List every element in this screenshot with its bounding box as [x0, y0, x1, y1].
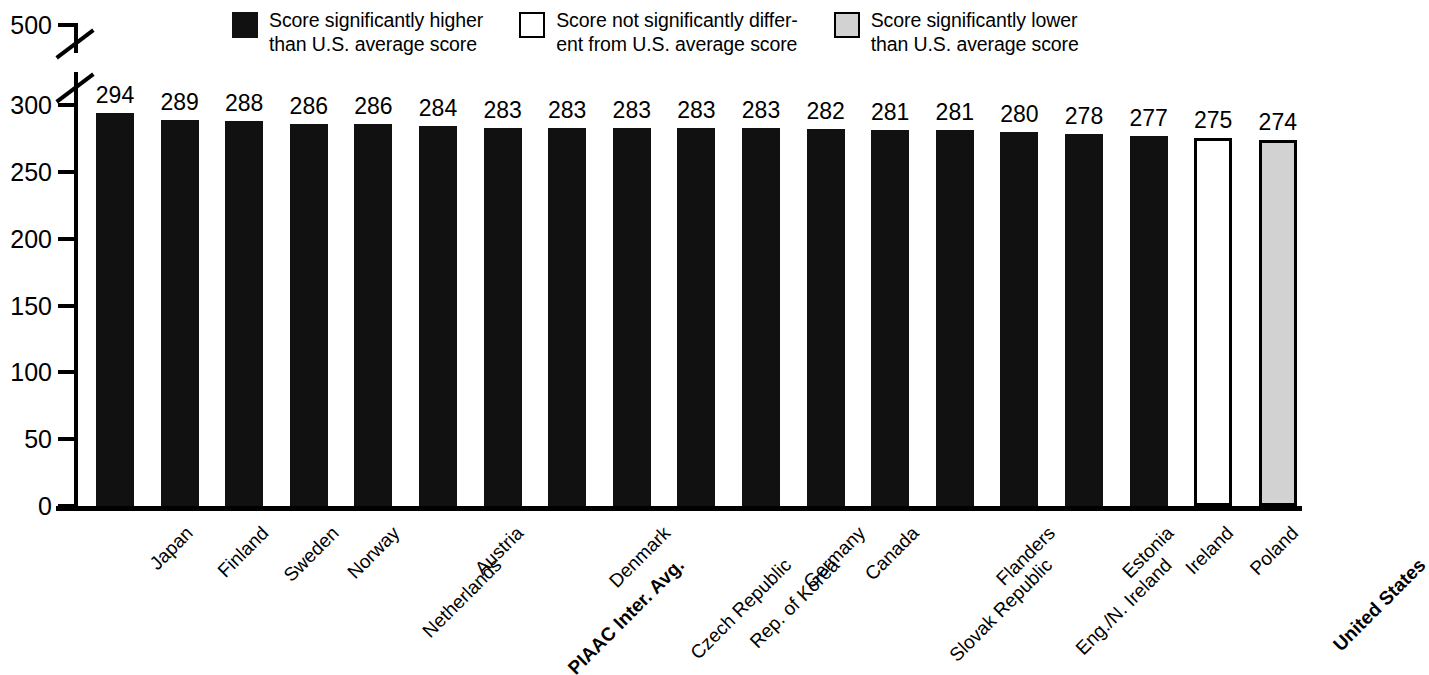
bar-value-label: 286 [279, 95, 339, 118]
bar [1194, 138, 1232, 506]
bar [1259, 140, 1297, 506]
bar [96, 113, 134, 506]
bar [807, 129, 845, 506]
bar [354, 124, 392, 506]
bar-value-label: 281 [860, 101, 920, 124]
x-tick-label: Norway [344, 523, 403, 582]
x-tick-label: Poland [1247, 523, 1302, 578]
bar [1065, 134, 1103, 506]
bar [290, 124, 328, 506]
x-tick-label: Canada [861, 523, 922, 584]
bar-value-label: 277 [1119, 107, 1179, 130]
bar [871, 130, 909, 506]
bar-value-label: 288 [214, 92, 274, 115]
plot-area: 500300250200150100500 294289288286286284… [0, 0, 1308, 560]
bar-value-label: 286 [343, 95, 403, 118]
x-axis-labels: JapanFinlandSwedenNorwayNetherlandsAustr… [0, 511, 1308, 675]
bar-value-label: 294 [85, 84, 145, 107]
bar-value-label: 283 [537, 99, 597, 122]
x-tick-label: Sweden [280, 523, 342, 585]
bar [936, 130, 974, 506]
bar-value-label: 283 [473, 99, 533, 122]
bar [1130, 136, 1168, 506]
x-tick-label: Ireland [1182, 523, 1237, 578]
bar-series: 2942892882862862842832832832832832822812… [0, 0, 1308, 560]
bar-value-label: 284 [408, 97, 468, 120]
bar-value-label: 281 [925, 101, 985, 124]
bar-value-label: 289 [150, 91, 210, 114]
bar [161, 120, 199, 506]
bar-value-label: 283 [731, 99, 791, 122]
bar-value-label: 275 [1183, 109, 1243, 132]
bar-value-label: 282 [796, 100, 856, 123]
x-tick-label: United States [1329, 555, 1428, 654]
x-tick-label: Japan [146, 523, 196, 573]
bar [548, 128, 586, 506]
bar [1000, 132, 1038, 506]
bar-value-label: 280 [989, 103, 1049, 126]
bar-value-label: 278 [1054, 105, 1114, 128]
bar [484, 128, 522, 506]
bar [613, 128, 651, 506]
bar [225, 121, 263, 506]
bar-value-label: 274 [1248, 111, 1308, 134]
bar-value-label: 283 [666, 99, 726, 122]
bar [419, 126, 457, 506]
bar [677, 128, 715, 506]
x-tick-label: Finland [214, 523, 272, 581]
bar [742, 128, 780, 506]
x-tick-label: Germany [800, 523, 869, 592]
bar-value-label: 283 [602, 99, 662, 122]
